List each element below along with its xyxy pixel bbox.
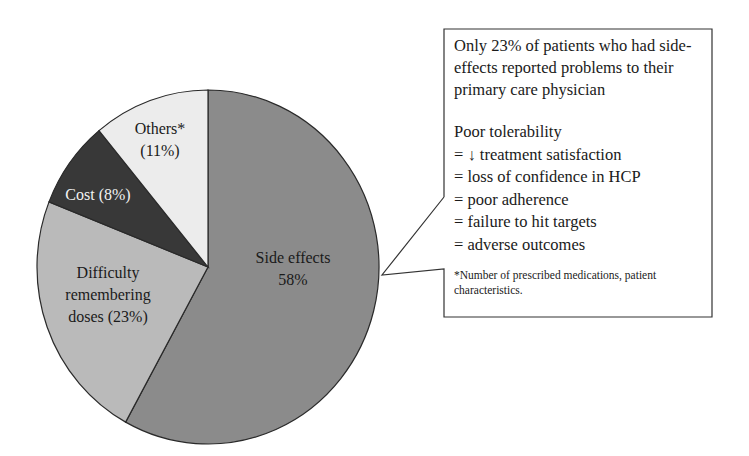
- slice-label: 58%: [278, 271, 307, 288]
- callout-main-text: Only 23% of patients who had side-effect…: [454, 35, 704, 101]
- consequence-item: = ↓ treatment satisfaction: [454, 144, 704, 167]
- slice-label: Others*: [135, 120, 186, 137]
- slice-label: (11%): [140, 142, 179, 160]
- consequence-item: = adverse outcomes: [454, 234, 704, 257]
- consequences-heading: Poor tolerability: [454, 121, 704, 144]
- callout-box: Only 23% of patients who had side-effect…: [444, 29, 712, 317]
- slice-label: remembering: [65, 286, 150, 304]
- slice-label: Cost (8%): [65, 186, 130, 204]
- consequences-list: Poor tolerability = ↓ treatment satisfac…: [454, 121, 704, 256]
- slice-label: Difficulty: [77, 264, 140, 282]
- slice-label: Side effects: [256, 249, 331, 266]
- consequence-item: = loss of confidence in HCP: [454, 166, 704, 189]
- footnote: *Number of prescribed medications, patie…: [454, 268, 704, 298]
- consequence-item: = failure to hit targets: [454, 211, 704, 234]
- slice-label: doses (23%): [68, 308, 148, 326]
- consequence-item: = poor adherence: [454, 189, 704, 212]
